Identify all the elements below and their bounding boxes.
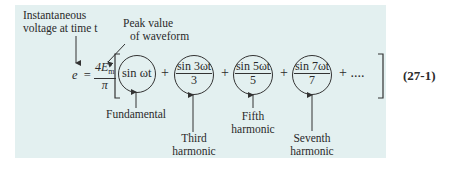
third-harmonic-term: sin 3ωt 3 — [175, 60, 213, 87]
equation-lhs: e = — [72, 68, 91, 83]
seventh-label-line1: Seventh — [288, 132, 336, 145]
coefficient-subscript: m — [108, 67, 114, 76]
seventh-harmonic-term: sin 7ωt 7 — [293, 60, 331, 87]
fundamental-term: sin ωt — [122, 66, 151, 81]
fifth-term-numerator: sin 5ωt — [235, 60, 271, 74]
plus-sign-3: + — [280, 65, 288, 81]
fundamental-label: Fundamental — [106, 108, 166, 121]
seventh-term-numerator: sin 7ωt — [294, 60, 330, 74]
fifth-label-line1: Fifth — [229, 110, 277, 123]
fifth-harmonic-label: Fifth harmonic — [229, 110, 277, 136]
arrows-layer — [0, 0, 454, 169]
third-term-denominator: 3 — [191, 74, 197, 87]
right-bracket — [378, 54, 383, 98]
lhs-variable: e — [72, 68, 78, 82]
coefficient-fraction: 4Em π — [94, 61, 116, 92]
seventh-label-line2: harmonic — [288, 145, 336, 158]
ellipsis-term: + .... — [339, 65, 364, 81]
fifth-term-denominator: 5 — [250, 74, 256, 87]
equals-sign: = — [84, 68, 91, 82]
plus-sign-2: + — [221, 65, 229, 81]
third-harmonic-label: Third harmonic — [170, 132, 218, 158]
fifth-label-line2: harmonic — [229, 123, 277, 136]
seventh-term-denominator: 7 — [309, 74, 315, 87]
third-label-line2: harmonic — [170, 145, 218, 158]
coefficient-denominator: π — [102, 79, 108, 92]
equation-number: (27-1) — [403, 68, 436, 84]
plus-sign-1: + — [161, 65, 169, 81]
seventh-harmonic-label: Seventh harmonic — [288, 132, 336, 158]
third-label-line1: Third — [170, 132, 218, 145]
coefficient-numerator: 4E — [95, 60, 108, 74]
fifth-harmonic-term: sin 5ωt 5 — [234, 60, 272, 87]
peak-arrow — [108, 44, 125, 62]
third-term-numerator: sin 3ωt — [176, 60, 212, 74]
